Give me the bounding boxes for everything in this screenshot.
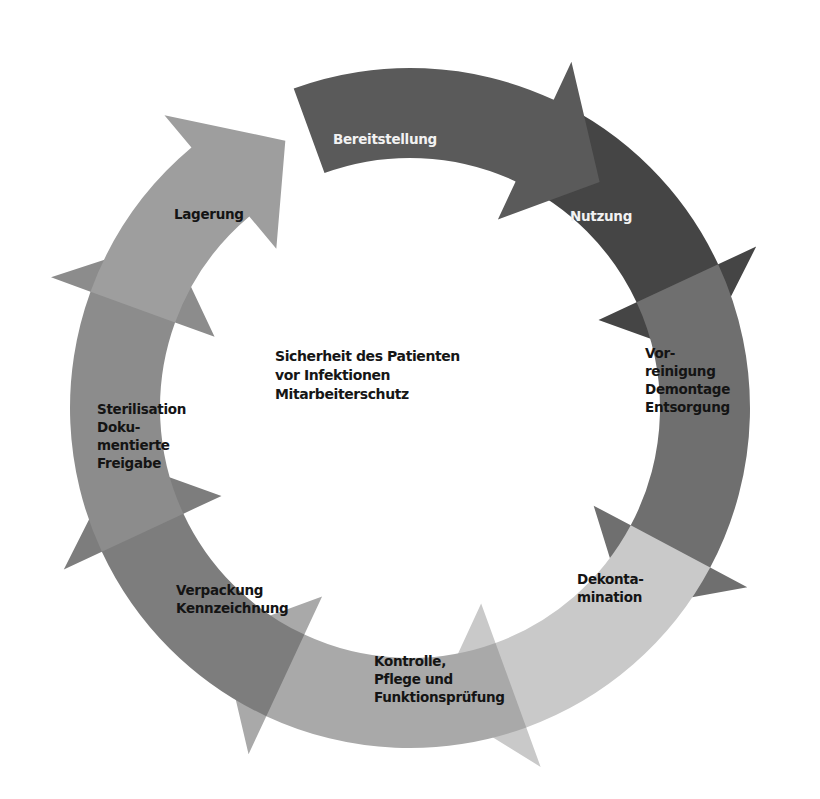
- step-label-sterilisation: Sterilisation Doku- mentierte Freigabe: [97, 400, 186, 472]
- step-label-kontrolle: Kontrolle, Pflege und Funktionsprüfung: [374, 652, 505, 706]
- step-label-verpackung: Verpackung Kennzeichnung: [176, 581, 288, 617]
- step-label-bereitstellung: Bereitstellung: [333, 130, 437, 148]
- step-label-nutzung: Nutzung: [570, 207, 632, 225]
- center-text: Sicherheit des Patienten vor Infektionen…: [275, 347, 460, 404]
- step-label-dekontamination: Dekonta- mination: [577, 570, 644, 606]
- step-label-lagerung: Lagerung: [174, 205, 244, 223]
- step-label-vorreinigung: Vor- reinigung Demontage Entsorgung: [645, 344, 730, 416]
